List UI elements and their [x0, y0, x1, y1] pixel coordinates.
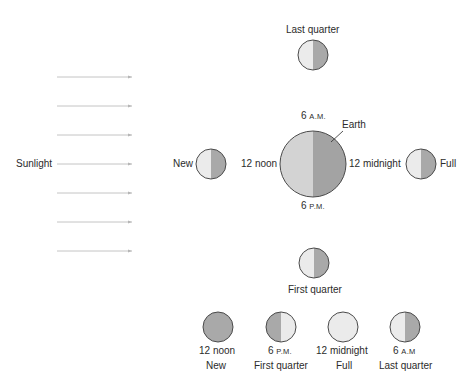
sunlight-arrows: [57, 77, 132, 251]
time-suffix: A.M: [401, 347, 415, 356]
phase-name-label: New: [206, 360, 226, 372]
moon-last-quarter: [298, 40, 328, 70]
phase-first-quarter-appearance: [266, 312, 296, 342]
time-suffix: P.M.: [276, 347, 292, 356]
phase-name-label: First quarter: [254, 360, 308, 372]
time-number: 6: [393, 345, 399, 356]
time-number: 6: [268, 345, 274, 356]
phase-time-label: 6 A.M: [393, 345, 416, 358]
moon-phase-diagram: [0, 0, 461, 382]
phase-name-label: Last quarter: [379, 360, 432, 372]
phase-time-label: 6 P.M.: [268, 345, 292, 358]
earth-label: Earth: [342, 119, 366, 131]
last-quarter-label: Last quarter: [286, 24, 339, 36]
moon-first-quarter: [299, 248, 329, 278]
phase-full-appearance: [328, 312, 358, 342]
moon-full: [406, 149, 436, 179]
earth-time-12-midnight: 12 midnight: [349, 158, 401, 170]
phase-new-appearance: [203, 312, 233, 342]
moon-new: [196, 149, 226, 179]
earth: [280, 131, 346, 197]
phase-time-label: 12 midnight: [316, 345, 368, 357]
time-suffix: P.M.: [309, 202, 325, 211]
earth-time-6pm: 6 P.M.: [301, 200, 325, 213]
full-label: Full: [440, 158, 456, 170]
earth-time-12-noon: 12 noon: [241, 158, 277, 170]
sunlight-label: Sunlight: [16, 158, 52, 170]
phase-name-label: Full: [336, 360, 352, 372]
phase-last-quarter-appearance: [390, 312, 420, 342]
phase-time-label: 12 noon: [199, 345, 235, 357]
time-suffix: A.M.: [309, 112, 326, 121]
earth-time-6am: 6 A.M.: [301, 110, 326, 123]
earth-leader-line: [331, 131, 343, 142]
time-number: 6: [301, 200, 307, 211]
new-label: New: [173, 158, 193, 170]
first-quarter-label: First quarter: [288, 284, 342, 296]
time-number: 6: [301, 110, 307, 121]
